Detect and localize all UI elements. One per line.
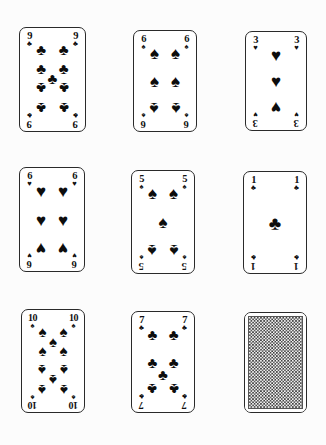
card-pip-field: ♥ ♥ ♥ [255, 49, 297, 113]
card-index-bottom-left: 5 ♠ [135, 254, 148, 271]
card-pip-field: ♠ ♠ ♠ ♠ ♠ ♠ [143, 48, 187, 114]
card-pip-field: ♥ ♥ ♥ ♥ ♥ ♥ [29, 185, 75, 254]
card-back-face [245, 313, 306, 412]
hearts-pip: ♥ [36, 182, 46, 199]
playing-card-ace-clubs[interactable]: 1 ♣ 1 ♣ 1 ♣ 1 ♣ ♣ [243, 171, 307, 274]
card-index-bottom-right: 10 ♠ [66, 393, 81, 410]
hearts-pip: ♥ [36, 239, 46, 256]
playing-card-9-clubs[interactable]: 9 ♣ 9 ♣ 9 ♣ 9 ♣ ♣ ♣ ♣ ♣ ♣ ♣ ♣ ♣ ♣ [19, 27, 86, 132]
playing-card-6-hearts[interactable]: 6 ♥ 6 ♥ 6 ♥ 6 ♥ ♥ ♥ ♥ ♥ ♥ ♥ [19, 167, 85, 272]
spades-pip: ♠ [171, 45, 180, 62]
card-index-bottom-right: 3 ♥ [290, 111, 303, 128]
card-index-bottom-right: 6 ♥ [68, 252, 81, 269]
card-index-bottom-right: 9 ♣ [69, 112, 82, 129]
playing-card-grid: 9 ♣ 9 ♣ 9 ♣ 9 ♣ ♣ ♣ ♣ ♣ ♣ ♣ ♣ ♣ ♣ 6 [0, 0, 326, 445]
spades-pip: ♠ [49, 373, 57, 388]
playing-card-6-spades[interactable]: 6 ♠ 6 ♠ 6 ♠ 6 ♠ ♠ ♠ ♠ ♠ ♠ ♠ [133, 30, 197, 132]
hearts-pip: ♥ [58, 239, 68, 256]
card-pip-field: ♣ ♣ ♣ ♣ ♣ ♣ ♣ [141, 329, 185, 395]
spades-pip: ♠ [38, 362, 46, 377]
card-index-bottom-left: 1 ♣ [247, 254, 260, 271]
spades-pip: ♠ [60, 343, 68, 358]
spades-pip: ♠ [49, 333, 57, 348]
hearts-pip: ♥ [58, 211, 68, 228]
card-pip-field: ♠ ♠ ♠ ♠ ♠ [141, 188, 185, 256]
playing-card-3-hearts[interactable]: 3 ♥ 3 ♥ 3 ♥ 3 ♥ ♥ ♥ ♥ [245, 31, 307, 131]
clubs-pip: ♣ [36, 61, 46, 76]
clubs-pip: ♣ [59, 42, 69, 57]
spades-pip: ♠ [158, 214, 167, 231]
card-index-bottom-right: 1 ♣ [290, 254, 303, 271]
clubs-pip: ♣ [148, 327, 158, 342]
clubs-pip: ♣ [148, 382, 158, 397]
clubs-pip: ♣ [59, 61, 69, 76]
spades-pip: ♠ [169, 185, 178, 202]
card-index-bottom-right: 6 ♠ [180, 112, 193, 129]
spades-pip: ♠ [60, 382, 68, 397]
clubs-pip: ♣ [148, 355, 158, 370]
spades-pip: ♠ [60, 362, 68, 377]
clubs-pip: ♣ [36, 42, 46, 57]
playing-card-back[interactable] [244, 312, 307, 413]
card-pip-field: ♣ [253, 189, 297, 256]
clubs-pip: ♣ [59, 81, 69, 96]
spades-pip: ♠ [38, 382, 46, 397]
card-index-bottom-left: 6 ♠ [137, 112, 150, 129]
clubs-pip: ♣ [158, 366, 168, 381]
spades-pip: ♠ [148, 185, 157, 202]
hearts-pip: ♥ [271, 73, 281, 90]
playing-card-5-spades[interactable]: 5 ♠ 5 ♠ 5 ♠ 5 ♠ ♠ ♠ ♠ ♠ ♠ [131, 170, 195, 274]
clubs-pip: ♣ [48, 71, 58, 86]
spades-pip: ♠ [150, 100, 159, 117]
spades-pip: ♠ [148, 241, 157, 258]
card-pip-field: ♣ ♣ ♣ ♣ ♣ ♣ ♣ ♣ ♣ [29, 45, 76, 114]
hearts-pip: ♥ [58, 182, 68, 199]
spades-pip: ♠ [169, 241, 178, 258]
card-pip-field: ♠ ♠ ♠ ♠ ♠ ♠ ♠ ♠ ♠ ♠ [31, 327, 75, 395]
spades-pip: ♠ [38, 324, 46, 339]
clubs-pip: ♣ [169, 355, 179, 370]
hearts-pip: ♥ [36, 211, 46, 228]
spades-pip: ♠ [38, 343, 46, 358]
spades-pip: ♠ [150, 45, 159, 62]
hearts-pip: ♥ [271, 46, 281, 63]
clubs-pip: ♣ [169, 327, 179, 342]
card-index-bottom-left: 9 ♣ [23, 112, 36, 129]
clubs-pip: ♣ [36, 81, 46, 96]
card-back-pattern [248, 316, 303, 409]
clubs-pip: ♣ [59, 101, 69, 116]
spades-pip: ♠ [171, 73, 180, 90]
spades-pip: ♠ [60, 324, 68, 339]
card-index-bottom-left: 6 ♥ [23, 252, 36, 269]
clubs-pip: ♣ [169, 382, 179, 397]
card-index-bottom-right: 5 ♠ [178, 254, 191, 271]
playing-card-10-spades[interactable]: 10 ♠ 10 ♠ 10 ♠ 10 ♠ ♠ ♠ ♠ ♠ ♠ ♠ ♠ ♠ ♠ ♠ [21, 309, 85, 413]
hearts-pip: ♥ [271, 99, 281, 116]
clubs-pip: ♣ [269, 213, 281, 232]
spades-pip: ♠ [150, 73, 159, 90]
spades-pip: ♠ [171, 100, 180, 117]
card-index-bottom-right: 7 ♣ [178, 393, 191, 410]
playing-card-7-clubs[interactable]: 7 ♣ 7 ♣ 7 ♣ 7 ♣ ♣ ♣ ♣ ♣ ♣ ♣ ♣ [131, 311, 195, 413]
clubs-pip: ♣ [36, 101, 46, 116]
card-index-bottom-left: 3 ♥ [249, 111, 262, 128]
